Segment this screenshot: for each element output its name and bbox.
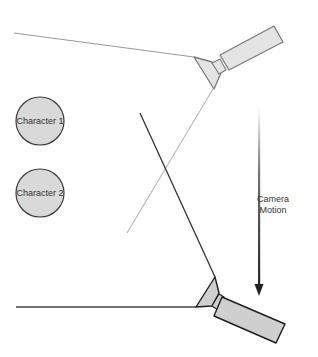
top-camera-icon <box>194 26 283 89</box>
bottom-camera-view-line-up <box>140 113 215 277</box>
character-1-label: Character 1 <box>16 116 63 126</box>
top-camera-view-line-down <box>127 89 213 233</box>
character-1-circle: Character 1 <box>16 97 64 145</box>
camera-motion-label-line1: Camera <box>257 194 289 204</box>
top-camera-view-line-left <box>14 33 194 57</box>
camera-motion-label-line2: Motion <box>259 205 286 215</box>
camera-motion-diagram: Character 1 Character 2 Camera Motion <box>0 0 318 357</box>
character-2-label: Character 2 <box>16 188 63 198</box>
bottom-camera-icon <box>196 277 285 343</box>
character-2-circle: Character 2 <box>16 169 64 217</box>
